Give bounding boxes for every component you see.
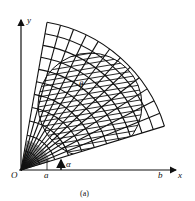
b-label: b: [158, 170, 163, 180]
beta-label: β: [23, 150, 29, 160]
x-axis-label: x: [177, 170, 182, 180]
origin-label: O: [11, 170, 18, 180]
figure-caption: (a): [80, 189, 89, 198]
a-label: a: [44, 170, 49, 180]
alpha-label: α: [66, 159, 71, 169]
theta-label: θ: [79, 79, 84, 89]
y-axis-label: y: [26, 15, 31, 25]
inner-hatched-region: [20, 0, 170, 160]
polar-mesh-diagram: y x O a b α β θ (a): [0, 0, 195, 201]
